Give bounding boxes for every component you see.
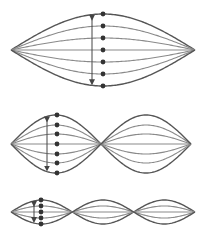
string-point-dot bbox=[101, 60, 106, 65]
string-point-dot bbox=[101, 72, 106, 77]
string-point-dot bbox=[55, 132, 60, 137]
string-point-dot bbox=[39, 204, 44, 209]
string-point-dot bbox=[39, 216, 44, 221]
string-point-dot bbox=[55, 152, 60, 157]
string-point-dot bbox=[55, 142, 60, 147]
string-point-dot bbox=[101, 48, 106, 53]
string-point-dot bbox=[55, 161, 60, 166]
string-point-dot bbox=[39, 198, 44, 203]
string-point-dot bbox=[55, 171, 60, 176]
string-point-dot bbox=[101, 24, 106, 29]
standing-wave-canvas bbox=[0, 0, 209, 237]
string-point-dot bbox=[101, 12, 106, 17]
harmonic-3-wave bbox=[11, 198, 195, 227]
standing-wave-diagram bbox=[0, 0, 209, 237]
string-point-dot bbox=[101, 84, 106, 89]
string-point-dot bbox=[39, 222, 44, 227]
string-point-dot bbox=[101, 36, 106, 41]
string-point-dot bbox=[39, 210, 44, 215]
harmonic-1-wave bbox=[11, 12, 195, 89]
harmonic-2-wave bbox=[11, 113, 191, 176]
string-point-dot bbox=[55, 123, 60, 128]
string-point-dot bbox=[55, 113, 60, 118]
